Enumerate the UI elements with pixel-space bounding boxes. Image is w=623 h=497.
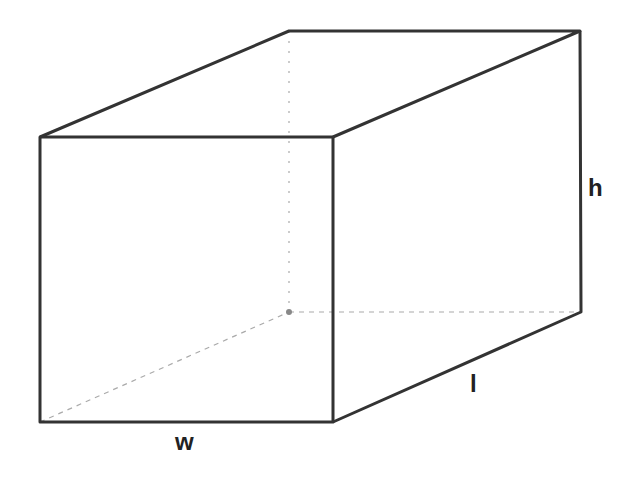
height-label: h bbox=[588, 176, 603, 200]
rectangular-prism-diagram: w l h bbox=[0, 0, 623, 497]
prism-drawing bbox=[0, 0, 623, 497]
right-face-edges bbox=[333, 31, 581, 422]
top-face-edges bbox=[40, 31, 580, 137]
width-label: w bbox=[175, 430, 194, 454]
hidden-edge-bottom-left-depth bbox=[40, 312, 289, 422]
front-face bbox=[40, 137, 333, 422]
hidden-vertex-dot bbox=[286, 309, 292, 315]
hidden-edges bbox=[40, 31, 581, 422]
visible-edges bbox=[40, 31, 581, 422]
length-label: l bbox=[470, 372, 477, 396]
